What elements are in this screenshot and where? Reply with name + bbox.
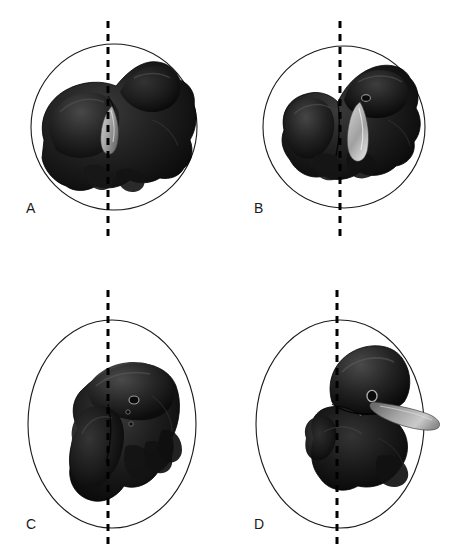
panel-label-c: C — [26, 517, 37, 531]
panel-b: B — [228, 0, 456, 278]
panel-c: C — [0, 278, 228, 557]
panel-a: A — [0, 0, 228, 278]
figure-root: A — [0, 0, 456, 557]
duct-dot-c-1 — [126, 410, 130, 414]
vein-opening-ring-c — [129, 396, 139, 404]
duct-dot-c-2 — [129, 422, 133, 426]
panel-label-b: B — [254, 201, 264, 215]
liver-specimen-a — [42, 62, 196, 192]
vein-opening-ring-d — [367, 390, 377, 401]
panel-label-a: A — [26, 201, 36, 215]
panel-label-d: D — [254, 517, 265, 531]
liver-specimen-c — [69, 362, 182, 501]
vein-opening-ring-b — [362, 95, 371, 102]
panel-b-graphic — [228, 0, 456, 278]
panel-a-graphic — [0, 0, 228, 278]
panel-d: D — [228, 278, 456, 557]
